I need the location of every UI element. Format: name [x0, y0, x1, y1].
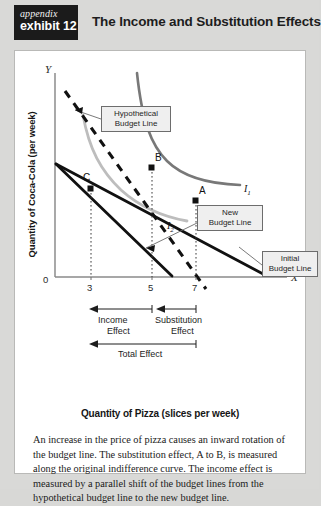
callout-new-budget-line[interactable]: New Budget Line: [197, 205, 263, 231]
y-axis-letter: Y: [45, 63, 53, 75]
substitution-effect-label-line1: Substitution: [155, 315, 202, 325]
point-marker-c: [88, 186, 94, 192]
origin-label: 0: [43, 274, 48, 285]
exhibit-tag-number: exhibit 12: [20, 19, 78, 33]
total-effect-label: Total Effect: [118, 349, 163, 359]
point-label-c: C: [83, 172, 90, 183]
callout-initial-line1: Initial: [266, 254, 314, 264]
point-marker-a: [193, 198, 199, 204]
income-effect-label-line2: Effect: [107, 326, 130, 336]
substitution-effect-label-line2: Effect: [171, 326, 194, 336]
point-label-b: B: [155, 152, 162, 163]
callout-new-line2: Budget Line: [201, 218, 259, 228]
exhibit-header: appendix exhibit 12 The Income and Subst…: [0, 0, 319, 50]
exhibit-caption-text: An increase in the price of pizza causes…: [33, 433, 289, 506]
figure-area: Quantity of Coca-Cola (per week) Y X 0: [15, 51, 305, 363]
callout-hypothetical-budget-line[interactable]: Hypothetical Budget Line: [101, 106, 171, 132]
callout-hypothetical-line1: Hypothetical: [105, 109, 167, 119]
xtick-label-5: 5: [148, 282, 153, 293]
exhibit-panel: Quantity of Coca-Cola (per week) Y X 0: [14, 50, 306, 474]
exhibit-tag-box: appendix exhibit 12: [14, 5, 78, 40]
callout-initial-line2: Budget Line: [266, 264, 314, 274]
total-effect-arrow-head: [89, 340, 98, 348]
callout-new-line1: New: [201, 208, 259, 218]
exhibit-card: appendix exhibit 12 The Income and Subst…: [0, 0, 319, 489]
substitution-effect-arrow-head: [156, 305, 165, 313]
exhibit-title: The Income and Substitution Effects: [92, 14, 321, 29]
curve-label-i2: I2: [166, 220, 174, 234]
callout-hypothetical-line2: Budget Line: [105, 119, 167, 129]
point-marker-b: [149, 165, 155, 171]
point-label-a: A: [199, 185, 206, 196]
income-effect-arrow-head: [89, 305, 98, 313]
x-axis-title: Quantity of Pizza (slices per week): [15, 408, 305, 419]
exhibit-tag-appendix: appendix: [20, 8, 78, 19]
callout-initial-budget-line[interactable]: Initial Budget Line: [262, 251, 318, 277]
xtick-label-3: 3: [87, 282, 92, 293]
xtick-label-7: 7: [192, 282, 197, 293]
curve-label-i1: I1: [243, 183, 251, 197]
income-effect-label-line1: Income: [98, 315, 128, 325]
